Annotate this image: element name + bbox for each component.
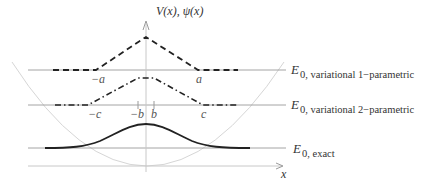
tick-label-minus-a: −a — [91, 72, 105, 86]
label-variational-1-E: E — [290, 62, 299, 77]
label-variational-1-sub: 0, variational 1−parametric — [300, 69, 414, 80]
exact-gaussian-wavefunction — [45, 124, 250, 148]
tick-label-a: a — [196, 72, 202, 86]
label-variational-2-E: E — [290, 97, 299, 112]
label-exact-E: E — [292, 141, 301, 156]
tick-label-minus-b: −b — [130, 107, 144, 121]
x-axis-label: x — [280, 167, 287, 181]
label-variational-2-sub: 0, variational 2−parametric — [300, 104, 414, 115]
variational-ground-state-diagram: V(x), ψ(x) x −a a −c −b b c E 0, variati… — [0, 0, 440, 184]
tick-label-minus-c: −c — [88, 107, 102, 121]
label-exact-sub: 0, exact — [302, 148, 335, 159]
label-variational-2: E 0, variational 2−parametric — [290, 97, 414, 115]
tick-label-c: c — [201, 107, 207, 121]
label-exact: E 0, exact — [292, 141, 335, 159]
y-axis-label: V(x), ψ(x) — [156, 4, 203, 18]
tick-label-b: b — [151, 107, 157, 121]
label-variational-1: E 0, variational 1−parametric — [290, 62, 414, 80]
